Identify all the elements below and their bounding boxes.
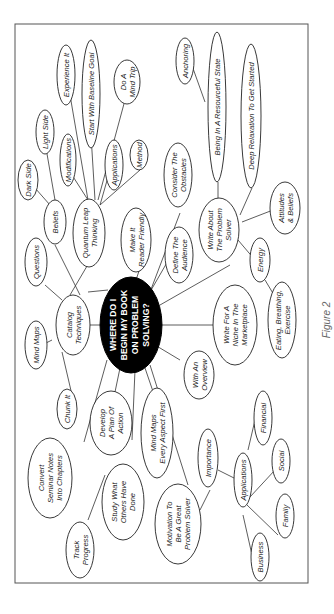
node-social: Social (272, 439, 290, 483)
svg-text:The Problem: The Problem (215, 208, 224, 251)
svg-text:Reader Friendly: Reader Friendly (137, 212, 146, 267)
svg-text:Define The: Define The (171, 236, 180, 273)
node-convert-seminar-notes: Convert Seminar Notes Into Chapters (28, 438, 72, 518)
svg-text:ON PROBLEM: ON PROBLEM (130, 296, 140, 354)
node-quantum-leap-thinking: Quantum Leap Thinking (73, 199, 105, 267)
node-experience-it: Experience It (57, 45, 75, 105)
svg-text:Business: Business (256, 541, 265, 572)
svg-text:WHERE DO I: WHERE DO I (108, 299, 118, 351)
svg-text:Do A: Do A (119, 74, 128, 91)
node-write-for-a-niche: Write For A Niche In The Marketplace (213, 285, 257, 365)
node-track-progress: Track Progress (66, 522, 94, 578)
svg-text:Write For A: Write For A (222, 306, 231, 344)
svg-text:Niche In The: Niche In The (231, 303, 240, 346)
svg-text:Questions: Questions (32, 245, 41, 279)
svg-text:Mind Maps: Mind Maps (149, 414, 158, 451)
svg-text:Mind Maps: Mind Maps (32, 326, 41, 363)
svg-text:Techniques: Techniques (74, 306, 83, 345)
svg-text:Solver: Solver (224, 219, 233, 241)
svg-text:Convert: Convert (37, 464, 46, 491)
node-applications-quantum: Applications (105, 140, 123, 190)
svg-text:Progress: Progress (81, 535, 90, 566)
svg-text:Track: Track (72, 540, 81, 560)
svg-text:Social: Social (277, 450, 286, 471)
svg-text:A Plan Of: A Plan Of (107, 406, 116, 440)
node-anchoring: Anchoring (176, 38, 194, 84)
svg-text:& Beliefs: & Beliefs (286, 193, 295, 223)
svg-text:Experience It: Experience It (62, 52, 71, 97)
svg-text:Consider The: Consider The (170, 152, 179, 198)
node-beliefs: Beliefs (44, 200, 66, 244)
svg-text:Financial: Financial (259, 402, 268, 433)
node-financial: Financial (254, 391, 272, 445)
svg-text:Done: Done (128, 493, 137, 511)
svg-text:Motivation To: Motivation To (165, 502, 174, 547)
svg-text:Deep Relaxation To Get Started: Deep Relaxation To Get Started (247, 62, 256, 170)
svg-text:Marketplace: Marketplace (240, 304, 249, 345)
mind-map: WHERE DO I BEGIN MY BOOK ON PROBLEM SOLV… (0, 0, 334, 614)
svg-text:Seminar Notes: Seminar Notes (46, 453, 55, 503)
svg-text:Thinking: Thinking (90, 218, 99, 247)
svg-text:Applications: Applications (239, 459, 248, 501)
node-being-in-a-resourceful-state: Being In A Resourceful State (208, 32, 226, 182)
node-chunk-it: Chunk It (57, 389, 77, 429)
svg-text:Importance: Importance (204, 439, 213, 477)
central-topic: WHERE DO I BEGIN MY BOOK ON PROBLEM SOLV… (100, 277, 162, 373)
svg-text:Make It: Make It (128, 227, 137, 253)
node-questions: Questions (25, 238, 47, 286)
node-attitudes-beliefs: Attitudes & Beliefs (270, 182, 300, 234)
svg-text:Quantum Leap: Quantum Leap (81, 208, 90, 258)
svg-text:Study What: Study What (110, 481, 119, 521)
svg-text:With An: With An (191, 362, 200, 388)
svg-text:Catalog: Catalog (65, 311, 74, 338)
node-business: Business (251, 533, 269, 581)
node-method: Method (130, 140, 148, 170)
node-write-about-the-problem-solver: Write About The Problem Solver (199, 198, 239, 262)
svg-text:Every Aspect First: Every Aspect First (158, 401, 167, 463)
svg-text:Overview: Overview (200, 359, 209, 391)
svg-text:Exercise: Exercise (283, 305, 292, 334)
svg-text:Applications: Applications (110, 144, 119, 186)
node-family: Family (276, 494, 294, 538)
node-with-an-overview: With An Overview (184, 351, 214, 399)
svg-text:Be A Great: Be A Great (174, 505, 183, 543)
svg-text:Method: Method (135, 142, 144, 168)
node-mind-maps: Mind Maps (25, 321, 47, 369)
node-applications-motivation: Applications (234, 453, 252, 507)
svg-text:Obstacles: Obstacles (179, 158, 188, 192)
node-motivation-to-be-a-great-problem-solver: Motivation To Be A Great Problem Solver (155, 484, 201, 564)
svg-text:Eating, Breathing,: Eating, Breathing, (274, 290, 283, 350)
svg-text:SOLVING?: SOLVING? (141, 303, 151, 346)
svg-text:Attitudes: Attitudes (277, 193, 286, 224)
svg-text:Family: Family (281, 504, 290, 528)
svg-text:Mind Trip: Mind Trip (128, 66, 137, 97)
node-study-what-others-have-done: Study What Others Have Done (102, 464, 144, 540)
node-consider-the-obstacles: Consider The Obstacles (164, 143, 192, 207)
node-make-it-reader-friendly: Make It Reader Friendly (121, 208, 151, 272)
svg-text:Energy: Energy (256, 247, 265, 272)
svg-text:Anchoring: Anchoring (181, 43, 190, 79)
svg-text:Develop: Develop (98, 409, 107, 437)
node-modifications: Modifications (60, 134, 76, 186)
node-eating-breathing-exercise: Eating, Breathing, Exercise (268, 282, 296, 358)
svg-text:Being In A Resourceful State: Being In A Resourceful State (213, 59, 222, 156)
svg-text:Into Chapters: Into Chapters (55, 455, 64, 501)
svg-text:BEGIN MY BOOK: BEGIN MY BOOK (119, 289, 129, 360)
svg-text:Light Side: Light Side (41, 115, 50, 149)
figure-caption: Figure 2 (321, 301, 332, 338)
node-define-the-audience: Define The Audience (165, 227, 193, 283)
node-mind-maps-every-aspect-first: Mind Maps Every Aspect First (141, 388, 173, 478)
svg-text:Chunk It: Chunk It (63, 394, 72, 423)
svg-text:Beliefs: Beliefs (51, 210, 60, 233)
svg-text:Modifications: Modifications (64, 138, 73, 183)
node-start-with-baseline-goal: Start With Baseline Goal (82, 40, 100, 148)
svg-text:Dark Side: Dark Side (24, 163, 33, 196)
svg-text:Write About: Write About (206, 209, 215, 249)
svg-text:Problem Solver: Problem Solver (183, 498, 192, 550)
node-dark-side: Dark Side (18, 160, 38, 200)
node-catalog-techniques: Catalog Techniques (56, 295, 90, 355)
node-light-side: Light Side (36, 110, 54, 154)
svg-text:Action: Action (116, 412, 125, 434)
node-deep-relaxation: Deep Relaxation To Get Started (241, 44, 261, 188)
svg-text:Start With Baseline Goal: Start With Baseline Goal (87, 52, 96, 135)
